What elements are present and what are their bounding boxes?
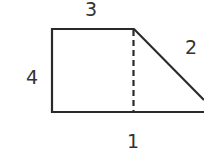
trapezoid-outline [52,29,204,112]
label-left: 4 [26,68,38,87]
label-bottom: 1 [127,132,139,151]
label-top: 3 [85,0,97,19]
label-diagonal: 2 [185,38,197,57]
